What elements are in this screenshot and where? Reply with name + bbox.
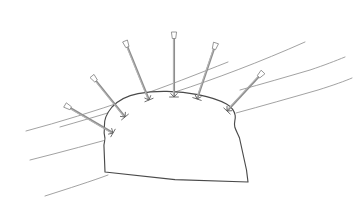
rock-bolt-4-head (171, 32, 176, 39)
rock-bolt-5-head (212, 42, 218, 50)
rock-bolt-5 (193, 42, 219, 100)
rock-bolt-3-shaft (127, 46, 149, 100)
tunnel-rock-bolt-figure (0, 0, 364, 206)
tunnel-outline-group (104, 91, 248, 182)
rock-bolt-2-head (90, 74, 97, 82)
rock-bolt-6-head (257, 70, 265, 78)
tunnel-cross-section-outline (104, 91, 248, 182)
rock-bolt-6-shaft (227, 76, 260, 111)
figure-canvas (0, 0, 364, 206)
rock-bolt-4 (170, 32, 179, 97)
rock-bolt-6-shaft-highlight (227, 75, 260, 110)
rock-bolt-1-head (64, 103, 72, 110)
strata-line-6 (45, 175, 108, 196)
rock-bolt-6 (224, 70, 265, 114)
rock-bolt-3-head (123, 40, 129, 48)
strata-line-3 (240, 57, 345, 90)
rock-bolt-3-shaft-highlight (126, 46, 148, 100)
